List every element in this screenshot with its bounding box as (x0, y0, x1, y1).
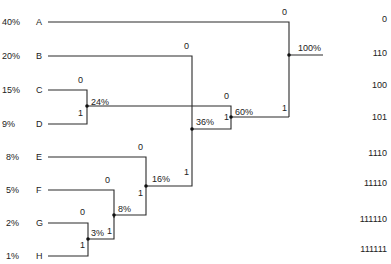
symbol-c: C (36, 85, 43, 95)
symbol-f: F (36, 185, 42, 195)
bit-16-one: 1 (138, 188, 143, 198)
node-dot-8 (112, 213, 116, 217)
bit-36-one: 1 (184, 167, 189, 177)
bit-8-one: 1 (107, 226, 112, 236)
node-dot-100 (287, 53, 291, 57)
symbol-e: E (36, 152, 42, 162)
node-dot-16 (144, 184, 148, 188)
symbol-a: A (36, 17, 42, 27)
prob-g: 2% (6, 218, 28, 228)
branch-a (48, 22, 289, 117)
code-h: 111111 (360, 244, 387, 254)
code-c: 100 (372, 80, 387, 90)
prob-h: 1% (6, 251, 28, 261)
node-dot-3 (86, 237, 90, 241)
code-d: 101 (372, 112, 387, 122)
bit-3-one: 1 (80, 240, 85, 250)
branch-e (48, 157, 146, 186)
bit-16-zero: 0 (138, 142, 143, 152)
node-label-8: 8% (118, 204, 131, 214)
code-a: 0 (382, 14, 387, 24)
node-label-3: 3% (91, 228, 104, 238)
prob-f: 5% (6, 185, 28, 195)
node-label-16: 16% (152, 174, 170, 184)
symbol-b: B (36, 51, 42, 61)
bit-24-one: 1 (78, 108, 83, 118)
bit-60-zero: 0 (224, 91, 229, 101)
code-b: 110 (373, 48, 387, 58)
node-label-36: 36% (196, 117, 214, 127)
bit-100-zero: 0 (282, 7, 287, 17)
prob-e: 8% (6, 152, 28, 162)
node-dot-36 (190, 127, 194, 131)
node-label-100: 100% (298, 43, 321, 53)
prob-c: 15% (2, 85, 24, 95)
branch-cd (48, 90, 87, 124)
bit-36-zero: 0 (184, 41, 189, 51)
branch-b (48, 56, 192, 129)
bit-100-one: 1 (282, 103, 287, 113)
bit-3-zero: 0 (80, 207, 85, 217)
node-label-24: 24% (91, 97, 109, 107)
symbol-h: H (36, 251, 43, 261)
huffman-tree-lines (0, 0, 391, 264)
code-g: 111110 (360, 214, 387, 224)
code-e: 1110 (368, 148, 387, 158)
bit-24-zero: 0 (78, 75, 83, 85)
bit-60-one: 1 (224, 112, 229, 122)
symbol-d: D (36, 119, 43, 129)
node-dot-24 (85, 104, 89, 108)
prob-a: 40% (2, 17, 24, 27)
bit-8-zero: 0 (105, 175, 110, 185)
node-dot-60 (229, 115, 233, 119)
symbol-g: G (36, 218, 43, 228)
prob-d: 9% (2, 119, 24, 129)
node-label-60: 60% (235, 107, 253, 117)
prob-b: 20% (2, 51, 24, 61)
code-f: 11110 (364, 178, 387, 188)
